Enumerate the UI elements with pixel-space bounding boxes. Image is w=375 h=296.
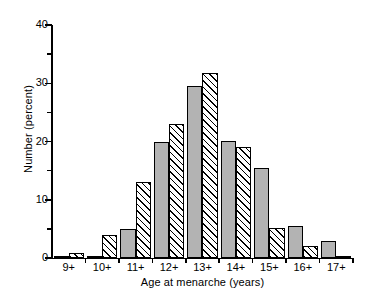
bar-12plus-hatched [169, 124, 184, 258]
y-tick-mark-major [45, 199, 52, 201]
x-axis-title: Age at menarche (years) [52, 276, 353, 288]
bar-12plus-solid [154, 142, 169, 259]
bar-group [219, 25, 252, 258]
x-tick-label-12plus: 12+ [152, 261, 185, 273]
x-tick-label-15plus: 15+ [253, 261, 286, 273]
bar-13plus-hatched [202, 73, 217, 258]
bar-group [286, 25, 319, 258]
y-tick-mark-minor [47, 228, 52, 230]
chart-figure: Number (percent) 010203040 Age at menarc… [0, 0, 375, 296]
bar-9plus-hatched [69, 253, 84, 258]
y-tick-mark-major [45, 141, 52, 143]
bar-9plus-solid [54, 256, 69, 258]
plot-area [52, 25, 353, 258]
bar-13plus-solid [187, 86, 202, 258]
y-tick-mark-major [45, 83, 52, 85]
x-tick-label-11plus: 11+ [119, 261, 152, 273]
bar-group [152, 25, 185, 258]
y-tick-mark-minor [47, 170, 52, 172]
bar-10plus-hatched [102, 235, 117, 258]
bar-15plus-hatched [269, 228, 284, 258]
x-tick-label-14plus: 14+ [219, 261, 252, 273]
x-tick-label-17plus: 17+ [320, 261, 353, 273]
bar-17plus-hatched [336, 256, 351, 258]
bar-11plus-hatched [136, 182, 151, 258]
bar-16plus-hatched [303, 246, 318, 258]
bar-17plus-solid [321, 241, 336, 258]
x-tick-label-13plus: 13+ [186, 261, 219, 273]
bar-10plus-solid [87, 256, 102, 258]
bar-14plus-solid [221, 141, 236, 258]
y-tick-mark-minor [47, 53, 52, 55]
y-axis-tick-labels: 010203040 [22, 0, 48, 296]
bar-11plus-solid [120, 229, 135, 258]
x-tick-label-9plus: 9+ [52, 261, 85, 273]
bar-15plus-solid [254, 168, 269, 258]
x-tick-label-10plus: 10+ [85, 261, 118, 273]
bar-group [186, 25, 219, 258]
bar-group [253, 25, 286, 258]
y-tick-mark-minor [47, 112, 52, 114]
bar-group [119, 25, 152, 258]
bar-group [320, 25, 353, 258]
bar-16plus-solid [288, 226, 303, 258]
bar-14plus-hatched [236, 147, 251, 258]
bar-group [85, 25, 118, 258]
x-tick-label-16plus: 16+ [286, 261, 319, 273]
y-tick-mark-major [45, 24, 52, 26]
y-tick-mark-major [45, 257, 52, 259]
bar-group [52, 25, 85, 258]
